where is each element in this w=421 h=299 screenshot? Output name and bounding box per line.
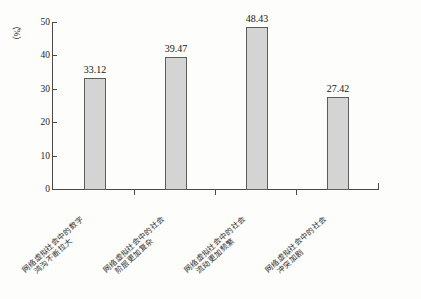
x-category-label-0-line2: 鸿沟不断拉大	[26, 221, 92, 281]
x-category-label-0-line1: 网络虚拟社会中的数字	[20, 214, 86, 274]
bar-3	[327, 97, 349, 190]
bar-value-2: 48.43	[235, 13, 279, 24]
y-tick-label-20: 20	[28, 117, 50, 127]
x-category-label-3: 网络虚拟社会中的社会 冲突加剧	[263, 214, 335, 281]
x-category-label-2: 网络虚拟社会中的社会 流动更加频繁	[182, 214, 254, 281]
x-tick-2	[215, 189, 216, 195]
y-tick-10	[52, 156, 57, 157]
y-tick-40	[52, 55, 57, 56]
x-tick-3	[296, 189, 297, 195]
y-tick-label-40: 40	[28, 50, 50, 60]
y-tick-30	[52, 89, 57, 90]
y-tick-50	[52, 22, 57, 23]
y-tick-label-0: 0	[28, 184, 50, 194]
x-tick-1	[134, 189, 135, 195]
x-category-label-2-line1: 网络虚拟社会中的社会	[182, 214, 248, 274]
x-category-label-1-line1: 网络虚拟社会中的社会	[101, 214, 167, 274]
bar-chart: （%） 0 10 20 30 40 50 33.12 39.47 48.43 2…	[0, 0, 421, 299]
x-axis-end-tick	[378, 183, 379, 190]
bar-1	[165, 57, 187, 190]
x-category-label-1-line2: 阶层更加复杂	[107, 221, 173, 281]
x-category-label-3-line2: 冲突加剧	[269, 221, 335, 281]
x-category-label-0: 网络虚拟社会中的数字 鸿沟不断拉大	[20, 214, 92, 281]
bar-value-0: 33.12	[73, 64, 117, 75]
bar-0	[84, 78, 106, 190]
y-tick-label-30: 30	[28, 84, 50, 94]
y-tick-label-50: 50	[28, 17, 50, 27]
bar-2	[246, 27, 268, 190]
y-tick-label-10: 10	[28, 151, 50, 161]
y-tick-0	[52, 189, 57, 190]
y-tick-20	[52, 122, 57, 123]
x-category-label-1: 网络虚拟社会中的社会 阶层更加复杂	[101, 214, 173, 281]
x-category-label-2-line2: 流动更加频繁	[188, 221, 254, 281]
bar-value-3: 27.42	[316, 83, 360, 94]
x-category-label-3-line1: 网络虚拟社会中的社会	[263, 214, 329, 274]
bar-value-1: 39.47	[154, 43, 198, 54]
y-axis-line	[52, 22, 53, 189]
